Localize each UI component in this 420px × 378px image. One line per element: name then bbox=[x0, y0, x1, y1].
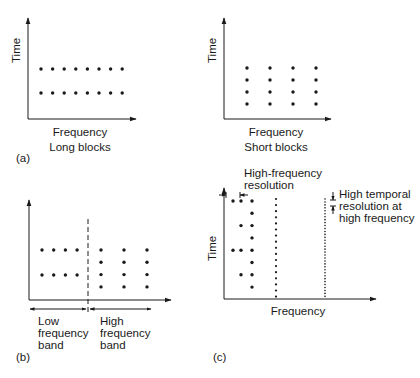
tf-sample-dot bbox=[314, 102, 317, 105]
tf-sample-dot bbox=[324, 248, 326, 250]
tf-sample-dot bbox=[86, 67, 89, 70]
panel-a-short-frequency-label: Frequency bbox=[249, 126, 303, 138]
low-frequency-band-label: Low frequency band bbox=[38, 315, 89, 351]
tf-sample-dot bbox=[109, 91, 112, 94]
tf-sample-dot bbox=[314, 78, 317, 81]
tf-sample-dot bbox=[52, 273, 55, 276]
panel-b-tag: (b) bbox=[16, 351, 30, 363]
tf-sample-dot bbox=[324, 251, 326, 253]
dot-columns bbox=[231, 198, 326, 298]
tf-sample-dot bbox=[275, 216, 277, 218]
tf-sample-dot bbox=[268, 90, 271, 93]
tf-sample-dot bbox=[275, 271, 277, 273]
tf-sample-dot bbox=[324, 207, 326, 209]
tf-sample-dot bbox=[121, 67, 124, 70]
tf-sample-dot bbox=[122, 248, 125, 251]
tf-sample-dot bbox=[231, 199, 234, 202]
tf-sample-dot bbox=[250, 249, 253, 252]
tf-sample-dot bbox=[86, 91, 89, 94]
tf-sample-dot bbox=[250, 273, 253, 276]
axes bbox=[28, 18, 136, 119]
tf-sample-dot bbox=[275, 253, 277, 255]
tf-sample-dot bbox=[99, 261, 102, 264]
tf-sample-dot bbox=[75, 248, 78, 251]
tf-sample-dot bbox=[324, 240, 326, 242]
dot-grid bbox=[245, 66, 317, 105]
tf-sample-dot bbox=[268, 66, 271, 69]
panel-a-short-blocks bbox=[224, 18, 331, 119]
tf-sample-dot bbox=[324, 278, 326, 280]
tf-sample-dot bbox=[250, 212, 253, 215]
tf-sample-dot bbox=[122, 285, 125, 288]
tf-sample-dot bbox=[275, 235, 277, 237]
tf-sample-dot bbox=[275, 210, 277, 212]
panel-a-long-time-label: Time bbox=[10, 38, 22, 63]
tf-sample-dot bbox=[324, 228, 326, 230]
tf-sample-dot bbox=[64, 248, 67, 251]
tf-sample-dot bbox=[324, 281, 326, 283]
tf-sample-dot bbox=[324, 210, 326, 212]
tf-sample-dot bbox=[99, 248, 102, 251]
tf-sample-dot bbox=[245, 66, 248, 69]
tf-sample-dot bbox=[275, 198, 277, 200]
tf-sample-dot bbox=[145, 273, 148, 276]
high-frequency-resolution-label: High-frequency resolution bbox=[244, 167, 322, 191]
tf-sample-dot bbox=[97, 67, 100, 70]
tf-sample-dot bbox=[275, 228, 277, 230]
tf-sample-dot bbox=[324, 293, 326, 295]
tf-sample-dot bbox=[52, 248, 55, 251]
tf-sample-dot bbox=[239, 224, 242, 227]
tf-sample-dot bbox=[40, 248, 43, 251]
tf-sample-dot bbox=[324, 263, 326, 265]
tf-sample-dot bbox=[51, 91, 54, 94]
tf-sample-dot bbox=[314, 90, 317, 93]
tf-sample-dot bbox=[324, 237, 326, 239]
tf-sample-dot bbox=[324, 266, 326, 268]
tf-sample-dot bbox=[324, 284, 326, 286]
tf-sample-dot bbox=[122, 261, 125, 264]
tf-sample-dot bbox=[40, 273, 43, 276]
panel-a-short-time-label: Time bbox=[206, 38, 218, 63]
tf-sample-dot bbox=[231, 249, 234, 252]
tf-sample-dot bbox=[291, 78, 294, 81]
tf-sample-dot bbox=[145, 285, 148, 288]
tf-sample-dot bbox=[250, 224, 253, 227]
panel-c-frequency-label: Frequency bbox=[271, 305, 325, 317]
tf-sample-dot bbox=[324, 296, 326, 298]
tf-sample-dot bbox=[324, 213, 326, 215]
tf-sample-dot bbox=[97, 91, 100, 94]
tf-sample-dot bbox=[39, 67, 42, 70]
tf-sample-dot bbox=[324, 231, 326, 233]
high-frequency-band-label: High frequency band bbox=[100, 315, 151, 351]
tf-sample-dot bbox=[291, 66, 294, 69]
axes bbox=[29, 200, 171, 312]
tf-sample-dot bbox=[62, 91, 65, 94]
tf-sample-dot bbox=[239, 273, 242, 276]
panel-a-long-frequency-label: Frequency bbox=[53, 126, 107, 138]
tf-sample-dot bbox=[275, 277, 277, 279]
dot-grid bbox=[40, 248, 148, 288]
tf-sample-dot bbox=[275, 241, 277, 243]
tf-sample-dot bbox=[145, 261, 148, 264]
tf-sample-dot bbox=[51, 67, 54, 70]
tf-sample-dot bbox=[109, 67, 112, 70]
tf-sample-dot bbox=[324, 260, 326, 262]
tf-sample-dot bbox=[74, 91, 77, 94]
tf-sample-dot bbox=[250, 199, 253, 202]
tf-sample-dot bbox=[74, 67, 77, 70]
tf-sample-dot bbox=[324, 275, 326, 277]
tf-sample-dot bbox=[268, 78, 271, 81]
tf-sample-dot bbox=[324, 225, 326, 227]
tf-sample-dot bbox=[99, 285, 102, 288]
tf-sample-dot bbox=[275, 222, 277, 224]
tf-sample-dot bbox=[268, 102, 271, 105]
tf-sample-dot bbox=[324, 219, 326, 221]
tf-sample-dot bbox=[250, 236, 253, 239]
tf-sample-dot bbox=[64, 273, 67, 276]
tf-sample-dot bbox=[324, 222, 326, 224]
tf-sample-dot bbox=[275, 265, 277, 267]
tf-sample-dot bbox=[275, 296, 277, 298]
tf-sample-dot bbox=[121, 91, 124, 94]
tf-sample-dot bbox=[245, 90, 248, 93]
high-temporal-resolution-label: High temporal resolution at high frequen… bbox=[339, 188, 414, 224]
